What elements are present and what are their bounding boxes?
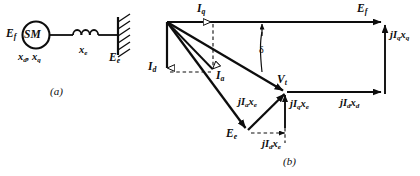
panel-a-tag: (a)	[50, 86, 63, 97]
label-machine-reactances: xd, xq	[18, 52, 41, 64]
label-phasor-id: Id	[148, 61, 156, 74]
label-phasor-jidxe: jIdxe	[262, 139, 281, 151]
label-machine-sm: SM	[24, 29, 41, 41]
label-phasor-jidxd: jIdxd	[340, 98, 359, 110]
label-xe-reactance: xe	[79, 45, 87, 57]
label-phasor-vt: Vt	[277, 74, 287, 87]
phasor-vt-arrow	[167, 22, 283, 91]
infinite-bus-icon	[118, 14, 130, 57]
figure-vector-layer	[0, 0, 420, 176]
label-phasor-ia: Ia	[216, 70, 224, 83]
panel-b-tag: (b)	[283, 156, 296, 167]
inductor-coil-icon	[73, 30, 98, 35]
label-phasor-iq: Iq	[197, 3, 205, 16]
label-phasor-ee: Ee	[226, 128, 237, 141]
figure-canvas: Ef SM xd, xq xe Ee (a) Iq Ef Id Ia δ Vt …	[0, 0, 420, 176]
phasor-ee-arrow	[167, 22, 246, 128]
label-phasor-jiqxe: jIqxe	[290, 99, 309, 111]
label-delta-angle: δ	[259, 45, 264, 55]
label-phasor-jiaxe: jIaxe	[238, 97, 257, 109]
label-ef-source: Ef	[6, 28, 16, 41]
panel-b-phasor-diagram	[167, 22, 385, 143]
label-phasor-ef: Ef	[357, 3, 367, 16]
label-phasor-jiqxq: jIqxq	[390, 30, 409, 42]
label-ee-bus: Ee	[109, 52, 120, 65]
